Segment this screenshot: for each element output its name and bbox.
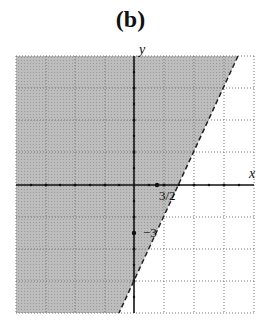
y-axis-label: y: [139, 42, 145, 58]
x-axis-label: x: [249, 166, 255, 182]
x-intercept-point: [155, 183, 159, 187]
inequality-graph: [0, 0, 261, 321]
y-intercept-point: [132, 231, 136, 235]
x-intercept-label: 3/2: [159, 188, 176, 204]
y-intercept-label: −3: [143, 225, 157, 241]
